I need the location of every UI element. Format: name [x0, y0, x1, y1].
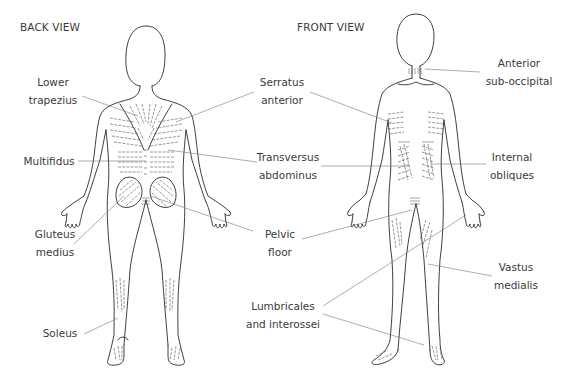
label-pelvic-floor: Pelvic floor [258, 225, 302, 261]
front-view-title: FRONT VIEW [297, 21, 365, 33]
label-multifidus: Multifidus [14, 152, 84, 170]
label-vastus-medialis: Vastus medialis [488, 258, 544, 294]
muscle-diagram: BACK VIEW FRONT VIEW Lower trapezius Mul… [0, 0, 565, 386]
label-lower-trapezius: Lower trapezius [17, 73, 89, 109]
label-internal-obliques: Internal obliques [484, 148, 540, 184]
label-anterior-suboccipital: Anterior sub-occipital [476, 54, 562, 90]
label-serratus-anterior: Serratus anterior [250, 73, 314, 109]
back-view-title: BACK VIEW [20, 21, 80, 33]
label-transversus-abdominus: Transversus abdominus [250, 148, 326, 184]
front-view-figure [347, 14, 484, 365]
label-gluteus-medius: Gluteus medius [30, 225, 80, 261]
label-soleus: Soleus [40, 324, 80, 342]
label-lumbricales-interossei: Lumbricales and interossei [240, 297, 326, 333]
